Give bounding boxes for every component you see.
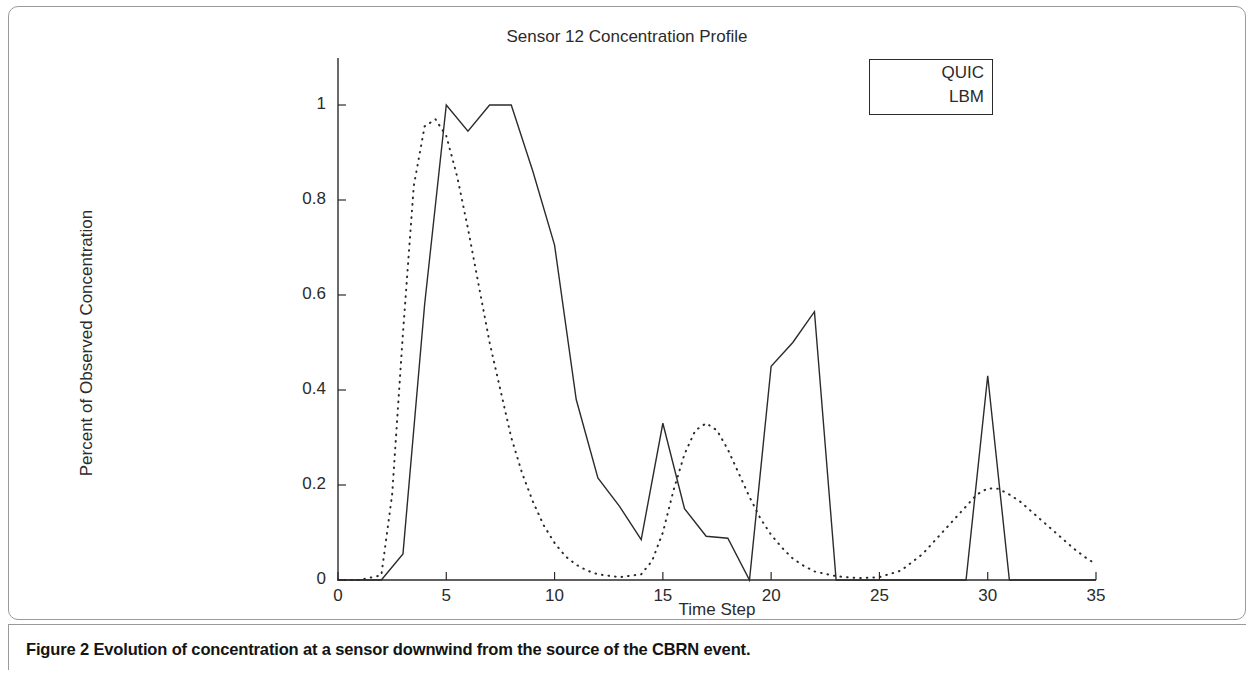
- x-tick-label: 35: [1066, 586, 1126, 606]
- x-tick-label: 20: [741, 586, 801, 606]
- x-tick-label: 0: [308, 586, 368, 606]
- x-tick-label: 10: [525, 586, 585, 606]
- legend-entry-lbm: LBM: [949, 87, 984, 107]
- chart-series-group: [338, 105, 1096, 580]
- chart-legend: QUIC LBM: [869, 59, 993, 115]
- chart-title: Sensor 12 Concentration Profile: [0, 27, 1254, 47]
- chart-canvas: [0, 0, 1254, 620]
- x-tick-label: 15: [633, 586, 693, 606]
- x-tick-label: 25: [849, 586, 909, 606]
- figure-caption-label: Figure 2: [26, 640, 89, 658]
- series-lbm: [338, 119, 1096, 580]
- figure-caption-text: Evolution of concentration at a sensor d…: [93, 640, 750, 658]
- y-tick-label: 0.4: [266, 379, 326, 399]
- x-tick-label: 5: [416, 586, 476, 606]
- figure-container: Sensor 12 Concentration Profile Percent …: [0, 0, 1254, 679]
- caption-divider: [8, 624, 1246, 625]
- x-tick-label: 30: [958, 586, 1018, 606]
- legend-entry-quic: QUIC: [942, 63, 985, 83]
- series-quic: [338, 105, 1096, 580]
- caption-left-border: [8, 624, 9, 670]
- y-tick-label: 0.6: [266, 284, 326, 304]
- y-tick-label: 0.8: [266, 189, 326, 209]
- y-tick-label: 1: [266, 94, 326, 114]
- y-axis-title: Percent of Observed Concentration: [77, 133, 97, 553]
- figure-caption: Figure 2 Evolution of concentration at a…: [26, 640, 1206, 659]
- chart-axes: [338, 58, 1096, 580]
- y-tick-label: 0.2: [266, 474, 326, 494]
- chart-plot-area: Sensor 12 Concentration Profile Percent …: [0, 0, 1254, 620]
